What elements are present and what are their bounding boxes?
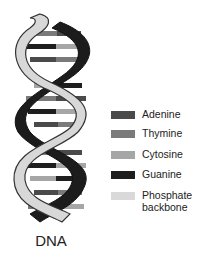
dna-double-helix bbox=[0, 0, 110, 232]
legend-label: Cytosine bbox=[142, 148, 183, 160]
guanine-swatch bbox=[111, 171, 135, 179]
thymine-swatch bbox=[111, 130, 135, 138]
legend-label: Guanine bbox=[142, 168, 182, 180]
phosphate-backbone-swatch bbox=[111, 192, 135, 200]
legend-label: Phosphate bbox=[142, 189, 192, 201]
cytosine-swatch bbox=[111, 151, 135, 159]
adenine-swatch bbox=[111, 111, 135, 119]
legend-label: Adenine bbox=[142, 108, 181, 120]
diagram-title: DNA bbox=[28, 232, 74, 249]
legend-label: Thymine bbox=[142, 127, 182, 139]
legend-label-line2: backbone bbox=[142, 201, 188, 213]
